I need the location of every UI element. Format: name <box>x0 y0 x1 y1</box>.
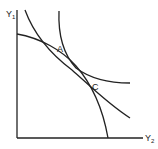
convex-curve-through-a-c <box>25 10 130 118</box>
x-axis-label: Y2 <box>145 133 155 144</box>
point-c-label: C <box>92 82 99 92</box>
convex-curve-steep <box>59 11 130 83</box>
diagram-canvas: Y1 Y2 A C <box>0 0 158 149</box>
y-axis-label: Y1 <box>6 9 16 20</box>
point-a-label: A <box>57 44 63 54</box>
